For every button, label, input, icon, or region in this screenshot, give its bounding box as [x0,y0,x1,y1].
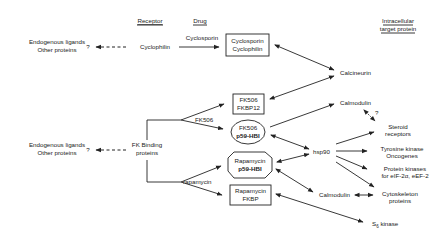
pk-label-1: Protein kinases [384,165,426,172]
arrow-fkbp12-calcineurin [270,76,334,99]
calcineurin-label: Calcineurin [340,69,372,76]
pk-label-2: for eIF-2α, eEF-2 [381,172,429,179]
complex-text: p59-HBI [236,132,260,139]
tyrosine-label-1: Tyrosine kinase [381,145,425,152]
fkbp-label-1: FK Binding [132,141,163,148]
calmodulin-question: ? [375,109,379,116]
fk506-drug-label: FK506 [195,116,214,123]
complex-text: FK506 [239,96,258,103]
header-target-1: Intracellular [382,17,414,24]
endogenous-bottom-1: Endogenous ligands [29,141,85,148]
arrow-fkp59-hsp90 [271,135,309,149]
steroid-label-2: receptors [385,130,411,137]
s6-kinase-label: S6 kinase [372,220,399,229]
question-top: ? [86,43,90,50]
drug-receptor-diagram: Receptor Drug Intracellular target prote… [0,0,437,238]
arrow-rapafkbp-s6 [276,194,363,222]
cyclosporin-drug-label: Cyclosporin [186,34,219,41]
tyrosine-label-2: Oncogenes [386,152,418,159]
question-bottom: ? [86,146,90,153]
steroid-label-1: Steroid [388,123,408,130]
header-drug: Drug [193,17,207,24]
complex-text: FKBP [242,195,258,202]
bracket-bottom [147,160,181,182]
arrow-cyclo-calcineurin [275,45,334,70]
calmodulin-top-label: Calmodulin [340,99,372,106]
arrow-hsp90-cyto [336,162,374,187]
dotted-arrow-calmodulin-steroid [364,110,375,121]
arrow-hsp90-steroid [336,132,374,144]
complex-text: FKBP12 [237,104,261,111]
complex-text: Rapamycin [235,187,267,194]
arrow-rapap59-hsp90 [277,154,309,162]
hsp90-label: hsp90 [313,148,330,155]
endogenous-top-2: Other proteins [37,46,76,53]
cyto-label-1: Cytoskeleton [382,190,418,197]
complex-text: p59-HBI [238,165,262,172]
arrow-hsp90-pk [336,156,367,169]
cyto-label-2: proteins [389,197,411,204]
bracket-top [147,120,181,140]
cyclophilin-label: Cyclophilin [140,43,170,50]
rapamycin-drug-label: rapamycin [183,178,212,185]
arrow-fk-calmodulin [270,104,334,127]
calmodulin-bottom-label: Calmodulin [319,191,351,198]
complex-text: Rapamycin [235,157,267,164]
header-receptor: Receptor [137,17,162,24]
endogenous-bottom-2: Other proteins [37,149,76,156]
arrow-rapap59-calmodulin [276,169,313,192]
complex-text: Cyclophilin [233,45,263,52]
complex-text: Cyclosporin [231,37,264,44]
fkbp-label-2: proteins [136,149,158,156]
complex-text: FK506 [239,124,258,131]
header-target-2: target protein [380,25,417,32]
endogenous-top-1: Endogenous ligands [29,38,85,45]
